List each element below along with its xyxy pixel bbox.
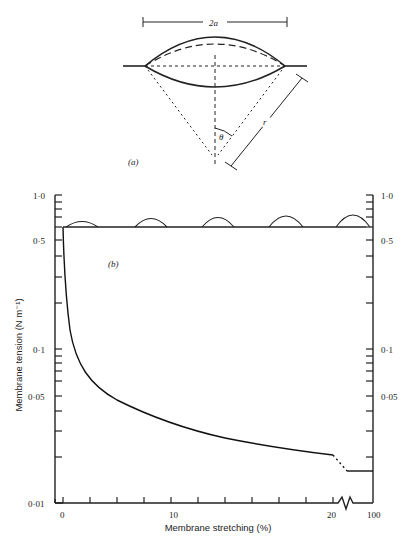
- panel-a-label: (a): [128, 157, 139, 167]
- svg-text:100: 100: [367, 510, 381, 520]
- svg-text:0·5: 0·5: [381, 236, 393, 246]
- y-ticks-left: [55, 195, 62, 457]
- y-ticks-right: [366, 195, 373, 457]
- bubble-2: [135, 219, 167, 228]
- bubble-3: [202, 218, 234, 228]
- bubble-5: [336, 215, 370, 227]
- svg-text:1·0: 1·0: [33, 191, 45, 201]
- svg-text:0·01: 0·01: [28, 499, 45, 509]
- svg-text:0·05: 0·05: [381, 392, 398, 402]
- y-tick-labels-right: 1·0 0·5 0·1 0·05: [381, 191, 398, 402]
- bubble-4: [269, 216, 303, 227]
- svg-text:1·0: 1·0: [381, 191, 393, 201]
- svg-text:10: 10: [169, 510, 179, 520]
- angle-label: θ: [219, 132, 224, 142]
- svg-text:20: 20: [327, 510, 337, 520]
- figure-canvas: 2a θ r (a): [0, 0, 417, 546]
- panel-b-axes: [55, 195, 373, 509]
- svg-text:0·05: 0·05: [28, 392, 45, 402]
- radius-label: r: [263, 117, 267, 127]
- solid-curve-segment: [63, 227, 333, 455]
- cap-upper-arc: [145, 37, 285, 66]
- svg-text:0: 0: [60, 510, 65, 520]
- panel-a-diagram: [123, 15, 308, 170]
- x-tick-labels: 0 10 20 100: [60, 510, 381, 520]
- svg-text:0·5: 0·5: [33, 236, 45, 246]
- dotted-transition: [333, 455, 347, 471]
- x-axis-title: Membrane stretching (%): [165, 522, 272, 533]
- panel-b-label: (b): [108, 259, 119, 269]
- bubble-1: [66, 222, 98, 228]
- span-label: 2a: [209, 18, 219, 28]
- svg-text:0·1: 0·1: [381, 345, 393, 355]
- y-tick-labels-left: 1·0 0·5 0·1 0·05 0·01: [28, 191, 45, 509]
- x-axis: [55, 497, 373, 509]
- inset-bubble-row: [63, 215, 370, 227]
- y-axis-title: Membrane tension (N m⁻¹): [13, 298, 24, 411]
- x-ticks: [63, 497, 333, 503]
- svg-text:0·1: 0·1: [33, 345, 45, 355]
